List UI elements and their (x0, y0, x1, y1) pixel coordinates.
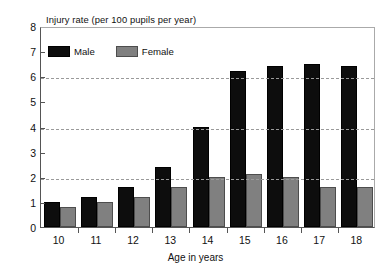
y-axis-tick-label: 0 (14, 223, 36, 234)
bar-female-age-15 (246, 174, 262, 227)
x-axis-tick-label: 15 (225, 234, 265, 246)
x-axis-tick-mark (189, 228, 190, 233)
bar-male-age-15 (230, 71, 246, 227)
legend-label: Male (74, 46, 95, 57)
x-axis-title: Age in years (0, 252, 391, 263)
bar-group (193, 127, 225, 228)
y-axis-tick-label: 1 (14, 198, 36, 209)
chart-legend: MaleFemale (48, 46, 174, 57)
y-axis-labels: 012345678 (8, 27, 36, 228)
bar-female-age-17 (320, 187, 336, 227)
y-axis-tick-label: 2 (14, 173, 36, 184)
x-axis-tick-mark (78, 228, 79, 233)
bar-group (267, 66, 299, 227)
bar-male-age-10 (44, 202, 60, 227)
legend-swatch-female-icon (116, 46, 138, 57)
x-axis-tick-label: 13 (150, 234, 190, 246)
legend-label: Female (142, 46, 174, 57)
chart-title: Injury rate (per 100 pupils per year) (46, 14, 196, 25)
bar-group (155, 167, 187, 227)
y-axis-tick-mark (40, 102, 45, 103)
bar-group (81, 197, 113, 227)
y-axis-tick-label: 4 (14, 122, 36, 133)
legend-item-male: Male (48, 46, 95, 57)
bar-female-age-10 (60, 207, 76, 227)
y-axis-tick-mark (40, 77, 45, 78)
y-axis-tick-mark (40, 52, 45, 53)
bar-male-age-12 (118, 187, 134, 227)
x-axis-tick-label: 11 (76, 234, 116, 246)
x-axis-tick-label: 12 (113, 234, 153, 246)
bar-group (230, 71, 262, 227)
y-axis-tick-label: 3 (14, 147, 36, 158)
bar-chart: Injury rate (per 100 pupils per year) 01… (0, 0, 391, 275)
bar-female-age-12 (134, 197, 150, 227)
bar-male-age-17 (304, 64, 320, 227)
bar-male-age-14 (193, 127, 209, 228)
y-axis-tick-mark (40, 178, 45, 179)
bar-male-age-16 (267, 66, 283, 227)
plot-area (40, 27, 375, 228)
x-axis-tick-label: 17 (299, 234, 339, 246)
bar-female-age-13 (171, 187, 187, 227)
y-axis-tick-label: 5 (14, 97, 36, 108)
y-axis-tick-label: 8 (14, 22, 36, 33)
bar-male-age-18 (341, 66, 357, 227)
x-axis-tick-mark (301, 228, 302, 233)
x-axis-tick-mark (338, 228, 339, 233)
x-axis-tick-label: 10 (39, 234, 79, 246)
y-axis-tick-mark (40, 203, 45, 204)
legend-item-female: Female (116, 46, 174, 57)
x-axis-tick-mark (264, 228, 265, 233)
bar-group (341, 66, 373, 227)
gridline (41, 129, 374, 130)
x-axis-tick-label: 16 (262, 234, 302, 246)
bar-female-age-16 (283, 177, 299, 227)
bar-group (44, 202, 76, 227)
legend-swatch-male-icon (48, 46, 70, 57)
x-axis-tick-mark (227, 228, 228, 233)
y-axis-tick-mark (40, 128, 45, 129)
y-axis-tick-mark (40, 153, 45, 154)
bar-group (304, 64, 336, 227)
y-axis-tick-label: 6 (14, 72, 36, 83)
x-axis-tick-mark (115, 228, 116, 233)
bar-female-age-18 (357, 187, 373, 227)
gridline (41, 78, 374, 79)
x-axis-tick-label: 14 (188, 234, 228, 246)
bar-group (118, 187, 150, 227)
bar-female-age-11 (97, 202, 113, 227)
bar-male-age-11 (81, 197, 97, 227)
bar-female-age-14 (209, 177, 225, 227)
gridline (41, 179, 374, 180)
x-axis-tick-mark (152, 228, 153, 233)
bars-layer (41, 28, 374, 227)
y-axis-tick-label: 7 (14, 47, 36, 58)
bar-male-age-13 (155, 167, 171, 227)
x-axis-tick-label: 18 (336, 234, 376, 246)
